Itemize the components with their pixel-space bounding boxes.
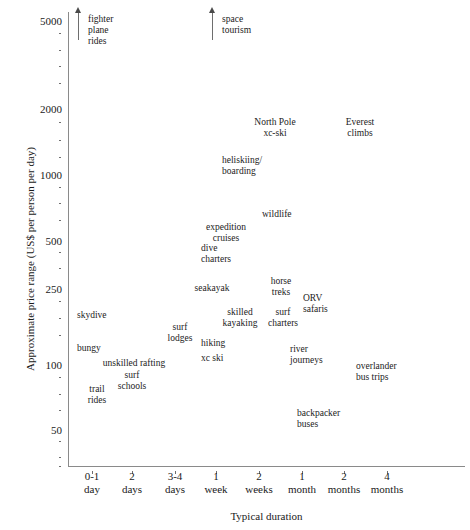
y-axis-tick: 2000 bbox=[0, 104, 62, 114]
arrow-head-icon bbox=[209, 7, 215, 13]
y-axis-minor-tick bbox=[59, 220, 61, 221]
surf-schools-label: surf schools bbox=[118, 370, 147, 392]
y-axis-tick: 250 bbox=[0, 284, 62, 294]
y-axis-minor-tick bbox=[59, 318, 61, 319]
y-axis-minor-tick bbox=[59, 466, 61, 467]
xc-ski-label: xc ski bbox=[201, 353, 223, 364]
x-axis-tick: 4months bbox=[352, 470, 422, 496]
y-axis-minor-tick bbox=[59, 441, 61, 442]
y-axis-minor-tick bbox=[59, 268, 61, 269]
north-pole-xc-ski-label: North Pole xc-ski bbox=[254, 117, 295, 139]
y-axis-minor-tick bbox=[59, 410, 61, 411]
skilled-kayaking-label: skilled kayaking bbox=[223, 307, 258, 329]
y-axis-minor-tick bbox=[59, 33, 61, 34]
y-axis-minor-tick bbox=[59, 187, 61, 188]
surf-lodges-label: surf lodges bbox=[168, 322, 193, 344]
y-axis-minor-tick bbox=[59, 377, 61, 378]
space-tourism-arrow bbox=[212, 12, 213, 40]
fighter-plane-rides-label: fighter plane rides bbox=[88, 14, 113, 47]
y-axis-minor-tick bbox=[59, 301, 61, 302]
y-axis-tick-label: 2000 bbox=[24, 104, 62, 114]
y-axis-tick-label: 250 bbox=[24, 284, 62, 294]
fighter-plane-rides-arrow bbox=[78, 12, 79, 40]
skydive-label: skydive bbox=[77, 310, 107, 321]
heliskiing-boarding-label: heliskiing/ boarding bbox=[222, 155, 262, 177]
overlander-bus-trips-label: overlander bus trips bbox=[356, 361, 397, 383]
y-axis-minor-tick bbox=[59, 394, 61, 395]
y-axis-minor-tick bbox=[59, 157, 61, 158]
backpacker-buses-label: backpacker buses bbox=[297, 408, 340, 430]
y-axis-tick-label: 5000 bbox=[24, 16, 62, 26]
x-axis-line bbox=[68, 466, 465, 467]
surf-charters-label: surf charters bbox=[268, 307, 298, 329]
arrow-head-icon bbox=[75, 7, 81, 13]
wildlife-label: expedition cruises bbox=[206, 222, 246, 244]
y-axis-tick: 1000 bbox=[0, 170, 62, 180]
y-axis-tick: 500 bbox=[0, 236, 62, 246]
y-axis-tick: 50 bbox=[0, 425, 62, 435]
y-axis-line bbox=[68, 12, 69, 467]
y-axis-minor-tick bbox=[59, 457, 61, 458]
y-axis-tick-label: 500 bbox=[24, 236, 62, 246]
y-axis-minor-tick bbox=[59, 66, 61, 67]
orv-safaris-label: ORV safaris bbox=[303, 293, 328, 315]
y-axis-minor-tick bbox=[59, 335, 61, 336]
expedition-cruises-label: wildlife bbox=[262, 209, 292, 220]
seakayak-label: seakayak bbox=[195, 283, 230, 294]
y-axis-minor-tick bbox=[59, 122, 61, 123]
trail-rides-label: trail rides bbox=[88, 384, 106, 406]
river-journeys-label: river journeys bbox=[290, 344, 323, 366]
everest-climbs-label: Everest climbs bbox=[346, 117, 375, 139]
y-axis-minor-tick bbox=[59, 83, 61, 84]
x-axis-tick-label-line2: months bbox=[352, 483, 422, 496]
y-axis-title: Approximate price range (US$ per person … bbox=[24, 94, 36, 424]
y-axis-tick-label: 1000 bbox=[24, 170, 62, 180]
y-axis-minor-tick bbox=[59, 203, 61, 204]
y-axis-tick-label: 50 bbox=[24, 425, 62, 435]
x-axis-title: Typical duration bbox=[68, 510, 465, 522]
y-axis-tick-label: 100 bbox=[24, 360, 62, 370]
x-axis-tick-label-line1: 4 bbox=[352, 470, 422, 483]
y-axis-tick: 5000 bbox=[0, 16, 62, 26]
price-vs-duration-chart: Approximate price range (US$ per person … bbox=[0, 0, 470, 530]
y-axis-minor-tick bbox=[59, 50, 61, 51]
bungy-label: bungy bbox=[77, 343, 101, 354]
horse-treks-label: horse treks bbox=[271, 276, 292, 298]
space-tourism-label: space tourism bbox=[222, 14, 251, 36]
dive-charters-label: dive charters bbox=[201, 243, 231, 265]
y-axis-minor-tick bbox=[59, 140, 61, 141]
hiking-label: hiking bbox=[201, 338, 225, 349]
unskilled-rafting-label: unskilled rafting bbox=[103, 358, 166, 369]
y-axis-tick: 100 bbox=[0, 360, 62, 370]
y-axis-minor-tick bbox=[59, 252, 61, 253]
